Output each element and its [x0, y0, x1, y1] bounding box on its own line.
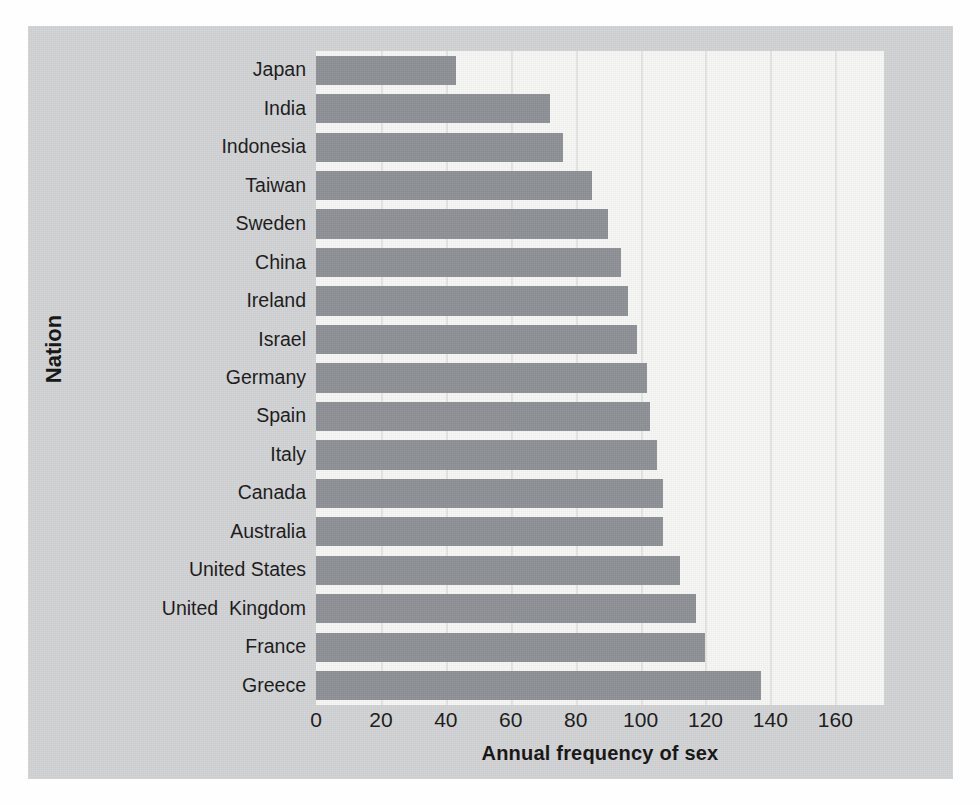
bar[interactable]: [316, 402, 650, 431]
bar-row[interactable]: [316, 171, 884, 200]
y-axis-tick-label: Greece: [242, 676, 306, 696]
y-axis-tick-label: Japan: [253, 60, 306, 80]
bar[interactable]: [316, 363, 647, 392]
bar-row[interactable]: [316, 363, 884, 392]
x-axis-tick-labels: 020406080100120140160: [316, 709, 916, 739]
bar-row[interactable]: [316, 325, 884, 354]
bar[interactable]: [316, 325, 637, 354]
bar-row[interactable]: [316, 133, 884, 162]
y-axis-tick-label: Canada: [238, 483, 306, 503]
y-axis-tick-label: Taiwan: [245, 176, 306, 196]
bar-row[interactable]: [316, 517, 884, 546]
bar-row[interactable]: [316, 556, 884, 585]
x-axis-tick-label: 40: [434, 709, 457, 730]
x-axis-tick-label: 60: [499, 709, 522, 730]
y-axis-tick-label: Germany: [226, 368, 306, 388]
bar[interactable]: [316, 479, 663, 508]
bar[interactable]: [316, 171, 592, 200]
y-axis-tick-label: United States: [189, 560, 306, 580]
bar-row[interactable]: [316, 56, 884, 85]
plot-area: [316, 51, 884, 705]
y-axis-tick-label: Italy: [270, 445, 306, 465]
bar-row[interactable]: [316, 286, 884, 315]
x-axis-tick-label: 140: [753, 709, 788, 730]
bar[interactable]: [316, 633, 705, 662]
figure-panel: JapanIndiaIndonesiaTaiwanSwedenChinaIrel…: [28, 26, 953, 779]
y-axis-tick-labels: JapanIndiaIndonesiaTaiwanSwedenChinaIrel…: [74, 51, 306, 705]
bar[interactable]: [316, 56, 456, 85]
bar[interactable]: [316, 671, 761, 700]
y-axis-title: Nation: [41, 269, 67, 429]
bar-row[interactable]: [316, 248, 884, 277]
y-axis-tick-label: United Kingdom: [162, 599, 306, 619]
x-axis-tick-label: 20: [369, 709, 392, 730]
x-axis-tick-label: 160: [818, 709, 853, 730]
x-axis-tick-label: 100: [623, 709, 658, 730]
y-axis-tick-label: Indonesia: [221, 137, 306, 157]
x-axis-tick-label: 0: [310, 709, 322, 730]
y-axis-tick-label: Ireland: [246, 291, 306, 311]
bar-row[interactable]: [316, 440, 884, 469]
y-axis-tick-label: Spain: [256, 406, 306, 426]
y-axis-tick-label: China: [255, 253, 306, 273]
bar[interactable]: [316, 94, 550, 123]
chart-page: JapanIndiaIndonesiaTaiwanSwedenChinaIrel…: [0, 0, 980, 805]
y-axis-tick-label: Israel: [258, 330, 306, 350]
bar-row[interactable]: [316, 94, 884, 123]
bar[interactable]: [316, 133, 563, 162]
bar-row[interactable]: [316, 479, 884, 508]
bar-row[interactable]: [316, 671, 884, 700]
y-axis-tick-label: France: [245, 637, 306, 657]
bar-row[interactable]: [316, 633, 884, 662]
bar[interactable]: [316, 209, 608, 238]
bar[interactable]: [316, 594, 696, 623]
bar[interactable]: [316, 517, 663, 546]
y-axis-tick-label: Sweden: [236, 214, 306, 234]
x-axis-tick-label: 80: [564, 709, 587, 730]
bar[interactable]: [316, 286, 628, 315]
bar[interactable]: [316, 556, 680, 585]
bar-row[interactable]: [316, 402, 884, 431]
bar[interactable]: [316, 248, 621, 277]
x-axis-title: Annual frequency of sex: [316, 742, 884, 765]
bar[interactable]: [316, 440, 657, 469]
y-axis-tick-label: India: [264, 99, 306, 119]
y-axis-tick-label: Australia: [230, 522, 306, 542]
x-axis-tick-label: 120: [688, 709, 723, 730]
bar-row[interactable]: [316, 209, 884, 238]
bar-row[interactable]: [316, 594, 884, 623]
